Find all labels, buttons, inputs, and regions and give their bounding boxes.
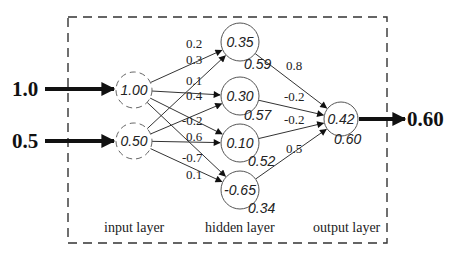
weight-label-input2-hidden4: 0.1: [186, 167, 202, 182]
weight-label-input1-hidden3: -0.2: [182, 113, 203, 128]
neural-network-diagram: 1.000.500.350.300.10-0.650.42 0.20.30.10…: [0, 0, 455, 255]
weight-label-input2-hidden3: 0.6: [186, 129, 203, 144]
hidden-node-net-input-4: -0.65: [224, 182, 256, 198]
hidden-node-net-input-2: 0.30: [226, 88, 253, 104]
weight-label-hidden3-output: -0.2: [284, 112, 305, 127]
input-layer-label: input layer: [104, 220, 165, 235]
external-output-value: 0.60: [407, 107, 444, 131]
weight-label-input2-hidden1: 0.3: [186, 52, 202, 67]
weight-label-input1-hidden1: 0.2: [186, 36, 202, 51]
hidden-layer-label: hidden layer: [205, 220, 275, 235]
input-node-value-2: 0.50: [120, 133, 147, 149]
output-node-net-input: 0.42: [327, 111, 354, 127]
hidden-node-activation-2: 0.57: [244, 107, 272, 123]
external-input-value-2: 0.5: [12, 129, 38, 153]
weight-label-input2-hidden2: 0.4: [186, 88, 203, 103]
weight-label-hidden4-output: 0.5: [286, 141, 302, 156]
weight-label-hidden1-output: 0.8: [286, 58, 302, 73]
output-layer-label: output layer: [313, 220, 381, 235]
input-node-value-1: 1.00: [120, 82, 147, 98]
hidden-node-activation-1: 0.59: [244, 56, 271, 72]
hidden-node-net-input-3: 0.10: [226, 135, 253, 151]
hidden-node-activation-4: 0.34: [248, 200, 275, 216]
hidden-node-activation-3: 0.52: [248, 153, 275, 169]
weight-label-hidden2-output: -0.2: [284, 89, 305, 104]
weight-label-input1-hidden4: -0.7: [182, 150, 203, 165]
hidden-node-net-input-1: 0.35: [226, 34, 253, 50]
external-input-value-1: 1.0: [12, 77, 38, 101]
output-node-activation: 0.60: [334, 131, 361, 147]
weight-label-input1-hidden2: 0.1: [186, 73, 202, 88]
nodes-group: 1.000.500.350.300.10-0.650.42: [116, 23, 358, 209]
